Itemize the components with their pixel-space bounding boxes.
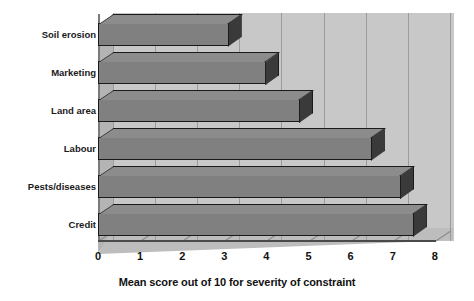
bar (98, 213, 414, 236)
x-axis-title: Mean score out of 10 for severity of con… (0, 276, 474, 288)
bar-top-face (99, 14, 242, 24)
category-label: Soil erosion (4, 29, 96, 40)
x-tick-label: 0 (88, 250, 108, 262)
y-axis-line (98, 14, 100, 241)
bar (98, 99, 300, 122)
bar-chart: Soil erosionMarketingLand areaLabourPest… (0, 0, 474, 301)
category-label: Pests/diseases (4, 181, 96, 192)
category-label: Credit (4, 219, 96, 230)
x-tick-label: 7 (383, 250, 403, 262)
bar-top-face (99, 128, 385, 138)
x-tick-label: 6 (341, 250, 361, 262)
x-tick-label: 2 (172, 250, 192, 262)
x-tick-label: 3 (214, 250, 234, 262)
category-label: Labour (4, 143, 96, 154)
bar-top-face (99, 52, 280, 62)
bar (98, 175, 401, 198)
bar-top-face (99, 166, 415, 176)
category-axis-labels: Soil erosionMarketingLand areaLabourPest… (0, 0, 96, 301)
bar (98, 23, 229, 46)
category-label: Marketing (4, 67, 96, 78)
bar (98, 137, 372, 160)
x-tick-label: 1 (130, 250, 150, 262)
bar-top-face (99, 204, 428, 214)
x-axis-line (98, 240, 436, 242)
bar-top-face (99, 90, 314, 100)
bar (98, 61, 266, 84)
x-tick-label: 4 (256, 250, 276, 262)
x-tick-label: 8 (425, 250, 445, 262)
x-tick-label: 5 (299, 250, 319, 262)
category-label: Land area (4, 105, 96, 116)
gridline (450, 13, 451, 241)
